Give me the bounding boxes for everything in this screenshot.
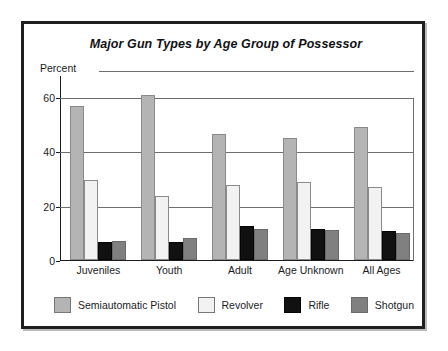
bar[interactable] bbox=[183, 238, 197, 260]
bar[interactable] bbox=[112, 241, 126, 260]
legend-item[interactable]: Rifle bbox=[284, 297, 329, 313]
top-rule bbox=[99, 71, 414, 72]
bar[interactable] bbox=[325, 230, 339, 260]
chart-frame: Major Gun Types by Age Group of Possesso… bbox=[21, 21, 425, 329]
bar[interactable] bbox=[354, 127, 368, 260]
bar[interactable] bbox=[84, 180, 98, 260]
bar[interactable] bbox=[240, 226, 254, 260]
y-tick-mark-20 bbox=[56, 207, 60, 208]
bar[interactable] bbox=[368, 187, 382, 260]
legend-label: Semiautomatic Pistol bbox=[78, 299, 176, 311]
bar[interactable] bbox=[382, 231, 396, 260]
bar-group bbox=[354, 76, 410, 260]
bar-group bbox=[70, 76, 126, 260]
x-axis-line bbox=[60, 260, 414, 261]
legend-swatch-shotgun bbox=[351, 297, 368, 313]
y-tick-label-40: 40 bbox=[43, 146, 55, 158]
legend-item[interactable]: Shotgun bbox=[351, 297, 414, 313]
bar-group bbox=[283, 76, 339, 260]
y-tick-mark-40 bbox=[56, 152, 60, 153]
bar[interactable] bbox=[283, 138, 297, 260]
bar[interactable] bbox=[254, 229, 268, 260]
bar[interactable] bbox=[98, 242, 112, 260]
bar[interactable] bbox=[212, 134, 226, 261]
chart-legend: Semiautomatic PistolRevolverRifleShotgun bbox=[54, 294, 414, 316]
y-axis-line bbox=[60, 76, 61, 261]
legend-swatch-semiauto bbox=[54, 297, 71, 313]
legend-label: Shotgun bbox=[375, 299, 414, 311]
plot-area: 0204060 JuvenilesYouthAdultAge UnknownAl… bbox=[60, 76, 414, 261]
y-tick-mark-0 bbox=[56, 261, 60, 262]
bar[interactable] bbox=[70, 106, 84, 260]
bar[interactable] bbox=[396, 233, 410, 260]
bar[interactable] bbox=[311, 229, 325, 260]
chart-title: Major Gun Types by Age Group of Possesso… bbox=[24, 37, 428, 51]
y-tick-label-20: 20 bbox=[43, 201, 55, 213]
legend-label: Revolver bbox=[222, 299, 263, 311]
bar[interactable] bbox=[169, 242, 183, 260]
bar-group bbox=[212, 76, 268, 260]
x-tick-label: All Ages bbox=[322, 264, 442, 276]
bar[interactable] bbox=[141, 95, 155, 260]
plot-right-edge bbox=[413, 98, 414, 261]
y-tick-mark-60 bbox=[56, 98, 60, 99]
bar[interactable] bbox=[226, 185, 240, 260]
legend-swatch-revolver bbox=[198, 297, 215, 313]
chart-figure: Major Gun Types by Age Group of Possesso… bbox=[0, 0, 448, 351]
legend-item[interactable]: Semiautomatic Pistol bbox=[54, 297, 176, 313]
legend-label: Rifle bbox=[308, 299, 329, 311]
y-axis-title: Percent bbox=[40, 62, 76, 74]
bar[interactable] bbox=[155, 196, 169, 260]
legend-item[interactable]: Revolver bbox=[198, 297, 263, 313]
legend-swatch-rifle bbox=[284, 297, 301, 313]
bar-group bbox=[141, 76, 197, 260]
y-tick-label-60: 60 bbox=[43, 92, 55, 104]
bar[interactable] bbox=[297, 182, 311, 260]
